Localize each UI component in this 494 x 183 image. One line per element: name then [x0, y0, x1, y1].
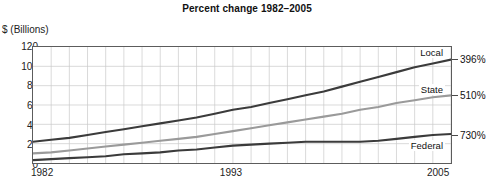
- percent-tick-mark: [452, 59, 458, 60]
- percent-change-state: 510%: [460, 90, 486, 101]
- x-tick-label: 2005: [427, 167, 449, 178]
- x-tick-label: 1993: [220, 167, 242, 178]
- percent-change-local: 396%: [460, 53, 486, 64]
- percent-change-federal: 730%: [460, 129, 486, 140]
- chart-title: Percent change 1982–2005: [0, 3, 494, 14]
- percent-tick-mark: [452, 135, 458, 136]
- y-axis-label: $ (Billions): [2, 24, 49, 35]
- x-tick-label: 1982: [31, 167, 53, 178]
- series-inline-labels: LocalStateFederal: [33, 47, 451, 163]
- plot-area: LocalStateFederal: [32, 46, 452, 164]
- series-label-federal: Federal: [409, 140, 445, 151]
- series-label-local: Local: [418, 47, 445, 58]
- chart-container: Percent change 1982–2005 $ (Billions) 02…: [0, 0, 494, 183]
- percent-tick-mark: [452, 95, 458, 96]
- series-label-state: State: [419, 84, 445, 95]
